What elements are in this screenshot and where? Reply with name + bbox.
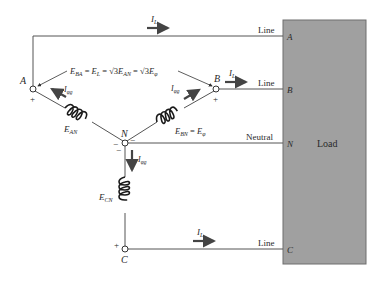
load-terminal-c: C bbox=[287, 245, 294, 255]
line-current-label-b: IL bbox=[228, 68, 236, 79]
node-n-label: N bbox=[120, 128, 129, 139]
pointer-to-a bbox=[38, 71, 67, 86]
load-terminal-b: B bbox=[287, 85, 293, 95]
coil-an-label: EAN bbox=[63, 124, 78, 135]
line-b-label: Line bbox=[258, 78, 275, 88]
node-c bbox=[122, 246, 128, 252]
node-b-label: B bbox=[214, 73, 220, 84]
neutral-label: Neutral bbox=[246, 132, 273, 142]
node-a-label: A bbox=[19, 75, 27, 86]
line-current-label-c: IL bbox=[196, 227, 204, 238]
node-n bbox=[122, 140, 128, 146]
node-a bbox=[30, 86, 36, 92]
load-terminal-n: N bbox=[286, 139, 294, 149]
plus-c: + bbox=[114, 240, 119, 250]
node-c-label: C bbox=[121, 254, 128, 265]
load-label: Load bbox=[317, 138, 338, 149]
coil-an bbox=[63, 103, 88, 123]
pointer-to-b bbox=[178, 71, 212, 86]
phase-current-label-c: Iφg bbox=[137, 155, 147, 165]
wye-circuit-diagram: A B N C + + + − − − Line Line Neutral Li… bbox=[0, 0, 384, 282]
node-b bbox=[213, 86, 219, 92]
line-c-label: Line bbox=[258, 238, 275, 248]
plus-b: + bbox=[213, 94, 218, 104]
minus-n-bottom: − bbox=[116, 145, 121, 155]
line-current-label-a: IL bbox=[150, 14, 158, 25]
plus-a: + bbox=[30, 94, 35, 104]
coil-bn bbox=[154, 106, 179, 126]
coil-cn bbox=[119, 177, 130, 200]
load-terminal-a: A bbox=[286, 32, 293, 42]
line-a-wire bbox=[33, 36, 283, 86]
phase-current-label-a: Iφg bbox=[63, 85, 73, 95]
phase-current-label-b: Iφg bbox=[170, 84, 180, 94]
line-a-label: Line bbox=[258, 25, 275, 35]
phase-current-arrow-b bbox=[184, 90, 199, 99]
line-voltage-equation: EBA = EL = √3EAN = √3Eφ bbox=[69, 66, 158, 77]
phase-voltage-equation: EBN = Eφ bbox=[174, 126, 206, 137]
coil-cn-label: ECN bbox=[98, 192, 114, 203]
minus-n-right: − bbox=[130, 135, 135, 145]
